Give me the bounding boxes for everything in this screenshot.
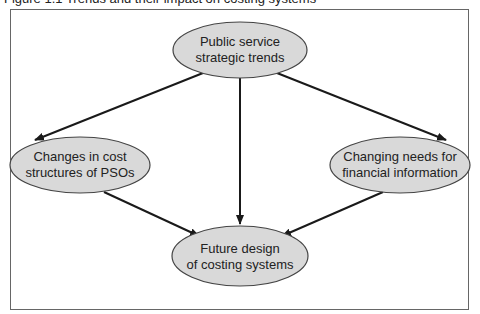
node-label-bottom: Future design of costing systems bbox=[187, 241, 294, 273]
arrow-right-to-bottom bbox=[282, 192, 383, 236]
node-label-line: Public service bbox=[196, 34, 285, 50]
node-label-line: financial information bbox=[342, 165, 458, 181]
node-label-line: Changing needs for bbox=[342, 149, 458, 165]
node-label-top: Public service strategic trends bbox=[196, 34, 285, 66]
arrow-top-to-right bbox=[277, 73, 446, 140]
node-label-line: of costing systems bbox=[187, 257, 294, 273]
node-label-line: strategic trends bbox=[196, 50, 285, 66]
node-label-right: Changing needs for financial information bbox=[342, 149, 458, 181]
arrow-left-to-bottom bbox=[104, 192, 199, 236]
node-label-line: Future design bbox=[187, 241, 294, 257]
node-label-line: Changes in cost bbox=[25, 149, 134, 165]
arrow-top-to-left bbox=[35, 73, 203, 140]
node-label-left: Changes in cost structures of PSOs bbox=[25, 149, 134, 181]
node-label-line: structures of PSOs bbox=[25, 165, 134, 181]
